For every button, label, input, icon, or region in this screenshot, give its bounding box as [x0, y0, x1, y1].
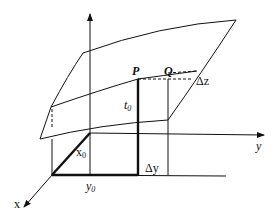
- delta-z-label: Δz: [196, 75, 209, 87]
- x-axis: [24, 175, 52, 207]
- x-axis-label: x: [14, 198, 20, 210]
- delta-y-label: Δy: [145, 162, 159, 174]
- surface-increment-figure: [0, 0, 276, 218]
- y0-label: y0: [86, 180, 95, 194]
- x0-label: x0: [76, 146, 86, 160]
- surface-top-edge: [83, 20, 236, 53]
- point-P-label: P: [132, 65, 139, 77]
- y-axis: [90, 133, 264, 135]
- point-Q-label: Q: [164, 65, 173, 77]
- t0-label: t0: [124, 99, 131, 113]
- diagram: P Q Δz Δy t0 x0 y0 y x: [0, 0, 276, 218]
- y-axis-label: y: [256, 140, 261, 152]
